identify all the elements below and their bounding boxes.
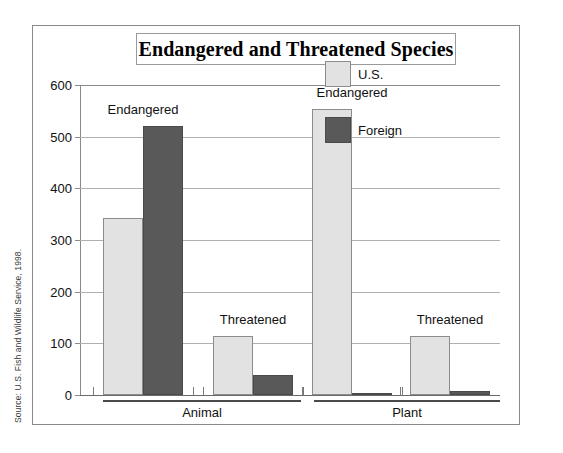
y-tick-mark-500 [75, 137, 80, 138]
bar-us-animal-endangered [103, 218, 143, 395]
y-tick-label-200: 200 [28, 284, 72, 299]
gridline-0 [80, 395, 500, 396]
baseline-tick [302, 387, 303, 395]
y-tick-mark-100 [75, 343, 80, 344]
baseline-tick [402, 387, 403, 395]
status-label-animal-threatened: Threatened [220, 312, 287, 327]
baseline-tick [400, 387, 401, 395]
legend-label-us: U.S. [358, 67, 383, 82]
plot-area: 0100200300400500600 EndangeredThreatened… [80, 85, 500, 395]
y-tick-mark-200 [75, 292, 80, 293]
baseline-tick [193, 387, 194, 395]
y-tick-mark-400 [75, 188, 80, 189]
bar-foreign-animal-endangered [143, 126, 183, 395]
group-label-animal: Animal [182, 405, 222, 420]
bar-us-animal-threatened [213, 336, 253, 395]
legend-item-us: U.S. [325, 61, 383, 87]
y-tick-mark-0 [75, 395, 80, 396]
group-rule-animal [103, 400, 301, 402]
baseline-tick [93, 387, 94, 395]
y-tick-mark-600 [75, 85, 80, 86]
legend-swatch-us-icon [325, 61, 351, 87]
y-tick-label-500: 500 [28, 129, 72, 144]
legend-item-foreign: Foreign [325, 117, 402, 143]
status-label-animal-endangered: Endangered [108, 102, 179, 117]
legend-swatch-foreign-icon [325, 117, 351, 143]
bar-foreign-animal-threatened [253, 375, 293, 395]
y-tick-mark-300 [75, 240, 80, 241]
bar-us-plant-endangered [312, 109, 352, 395]
y-tick-label-400: 400 [28, 181, 72, 196]
gridline-600 [80, 85, 500, 86]
legend-label-foreign: Foreign [358, 123, 402, 138]
status-label-plant-threatened: Threatened [417, 312, 484, 327]
y-tick-label-600: 600 [28, 78, 72, 93]
bar-foreign-plant-threatened [450, 391, 490, 395]
page-title: Endangered and Threatened Species [138, 38, 453, 61]
group-label-plant: Plant [392, 405, 422, 420]
bar-foreign-plant-endangered [352, 393, 392, 395]
chart-title-box: Endangered and Threatened Species [136, 33, 456, 65]
source-note: Source: U.S. Fish and Wildlife Service, … [13, 243, 23, 423]
bar-us-plant-threatened [410, 336, 450, 395]
y-tick-label-100: 100 [28, 336, 72, 351]
baseline-tick [303, 387, 304, 395]
baseline-tick [203, 387, 204, 395]
y-tick-label-300: 300 [28, 233, 72, 248]
group-rule-plant [314, 400, 500, 402]
chart-figure: Endangered and Threatened Species Source… [0, 0, 563, 453]
status-label-plant-endangered: Endangered [317, 85, 388, 100]
y-tick-label-0: 0 [28, 388, 72, 403]
